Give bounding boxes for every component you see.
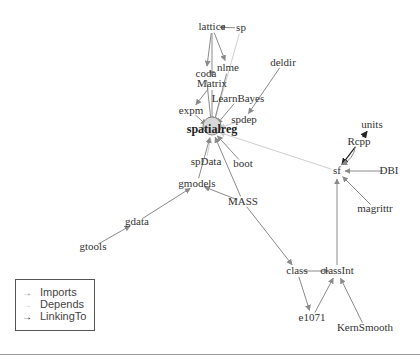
- legend-label: Depends: [40, 298, 84, 310]
- node-units[interactable]: units: [361, 118, 382, 130]
- node-spatialreg[interactable]: spatialreg: [187, 122, 237, 136]
- node-class[interactable]: class: [286, 264, 307, 276]
- legend-label: LinkingTo: [40, 310, 86, 322]
- node-deldir[interactable]: deldir: [270, 56, 296, 68]
- bottom-divider: [0, 354, 420, 355]
- node-classInt[interactable]: classInt: [320, 264, 354, 276]
- node-sp[interactable]: sp: [236, 21, 246, 33]
- edge-e1071-to-classInt: [315, 278, 333, 313]
- node-KernSmooth[interactable]: KernSmooth: [337, 321, 394, 333]
- legend-item-linkingto: →LinkingTo: [22, 310, 86, 323]
- node-gdata[interactable]: gdata: [125, 215, 149, 227]
- edge-MASS-to-class: [247, 207, 292, 265]
- node-gmodels[interactable]: gmodels: [178, 177, 215, 189]
- node-spData[interactable]: spData: [191, 155, 222, 167]
- node-nlme[interactable]: nlme: [217, 61, 239, 73]
- node-MASS[interactable]: MASS: [228, 195, 258, 207]
- node-Rcpp[interactable]: Rcpp: [347, 135, 371, 147]
- edge-class-to-e1071: [299, 277, 310, 311]
- edge-lattice-to-nlme: [214, 33, 225, 61]
- edge-gdata-to-gmodels: [142, 188, 190, 219]
- node-sf[interactable]: sf: [333, 164, 341, 176]
- node-expm[interactable]: expm: [179, 104, 204, 116]
- legend-label: Imports: [40, 286, 77, 298]
- legend: →Imports →Depends →LinkingTo: [15, 279, 95, 331]
- node-DBI[interactable]: DBI: [380, 164, 399, 176]
- node-gtools[interactable]: gtools: [80, 240, 107, 252]
- node-boot[interactable]: boot: [233, 157, 253, 169]
- nodes-layer: latticespnlmedeldircodaMatrixLearnBayese…: [80, 20, 399, 333]
- edge-magrittr-to-sf: [343, 177, 371, 205]
- node-magrittr[interactable]: magrittr: [357, 202, 393, 214]
- edge-lattice-to-coda: [207, 33, 211, 66]
- node-e1071[interactable]: e1071: [299, 311, 326, 323]
- edge-KernSmooth-to-classInt: [341, 278, 363, 322]
- node-LearnBayes[interactable]: LearnBayes: [212, 92, 265, 104]
- node-lattice[interactable]: lattice: [199, 20, 226, 32]
- node-Matrix[interactable]: Matrix: [197, 77, 227, 89]
- edge-Rcpp-to-sf: [342, 147, 356, 165]
- edge-Matrix-to-expm: [196, 89, 208, 105]
- linkingto-arrow-icon: →: [22, 311, 34, 323]
